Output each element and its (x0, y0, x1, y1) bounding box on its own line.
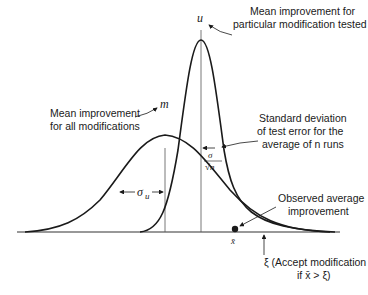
m-annotation-line1: Mean improvement (50, 107, 140, 119)
xbar-symbol: x̄ (230, 236, 236, 246)
sigma-u-subscript: u (145, 191, 150, 201)
sd-annotation-line2: of test error for the (257, 125, 344, 137)
m-symbol: m (160, 97, 169, 111)
sd-annotation-line1: Standard deviation (259, 112, 347, 124)
u-symbol: u (197, 11, 203, 25)
sigma-u-symbol: σ (137, 185, 144, 199)
u-annotation-line1: Mean improvement for (250, 5, 356, 17)
sd-annotation-line3: average of n runs (262, 138, 344, 150)
sigma-n-numerator: σ (208, 150, 213, 160)
observed-leader-line (240, 207, 276, 226)
u-annotation-line2: particular modification tested (233, 18, 367, 30)
observed-average-dot (232, 226, 238, 232)
sigma-n-denominator: √n (205, 162, 215, 172)
observed-annotation-line1: Observed average (278, 192, 365, 204)
xi-annotation-line2: if x̄ > ξ) (297, 269, 331, 281)
u-leader-line (209, 25, 232, 35)
m-annotation-line2: for all modifications (50, 120, 140, 132)
observed-annotation-line2: improvement (288, 205, 349, 217)
diagram-canvas: u Mean improvement for particular modifi… (0, 0, 368, 295)
sd-leader-line (222, 141, 258, 147)
xi-annotation-line1: ξ (Accept modification (264, 256, 366, 268)
